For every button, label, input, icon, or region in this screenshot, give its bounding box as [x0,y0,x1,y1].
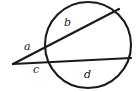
segment-label-d: d [84,69,91,80]
diagram-canvas [0,0,139,92]
segment-label-b: b [64,17,71,28]
geometry-diagram: a b c d [0,0,139,92]
segment-label-a: a [24,41,31,52]
segment-label-c: c [33,64,39,75]
lower-secant-line [13,58,131,64]
